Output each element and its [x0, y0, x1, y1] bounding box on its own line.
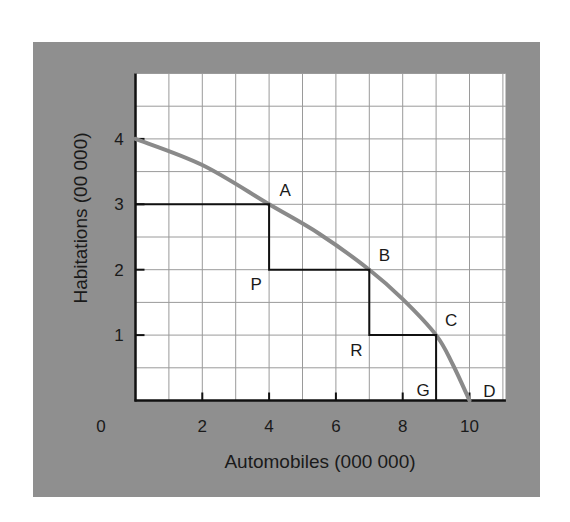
production-possibility-chart: 2468101234 ABCDPRG 0 Automobiles (000 00…: [0, 0, 570, 522]
point-label-p: P: [250, 275, 261, 294]
x-axis-label: Automobiles (000 000): [224, 451, 415, 472]
origin-label: 0: [96, 417, 105, 436]
x-tick-label: 2: [198, 417, 207, 436]
x-tick-label: 4: [264, 417, 273, 436]
point-label-r: R: [350, 341, 362, 360]
point-label-b: B: [379, 246, 390, 265]
chart-container: 2468101234 ABCDPRG 0 Automobiles (000 00…: [0, 0, 570, 522]
point-label-g: G: [416, 381, 429, 400]
point-label-a: A: [279, 181, 291, 200]
y-tick-label: 1: [114, 326, 123, 345]
x-tick-label: 6: [331, 417, 340, 436]
point-label-c: C: [445, 311, 457, 330]
point-label-d: D: [483, 382, 495, 401]
y-tick-label: 2: [114, 261, 123, 280]
y-tick-label: 3: [114, 195, 123, 214]
x-tick-label: 10: [460, 417, 479, 436]
y-axis-label: Habitations (00 000): [70, 132, 91, 303]
x-tick-label: 8: [398, 417, 407, 436]
y-tick-label: 4: [114, 130, 123, 149]
